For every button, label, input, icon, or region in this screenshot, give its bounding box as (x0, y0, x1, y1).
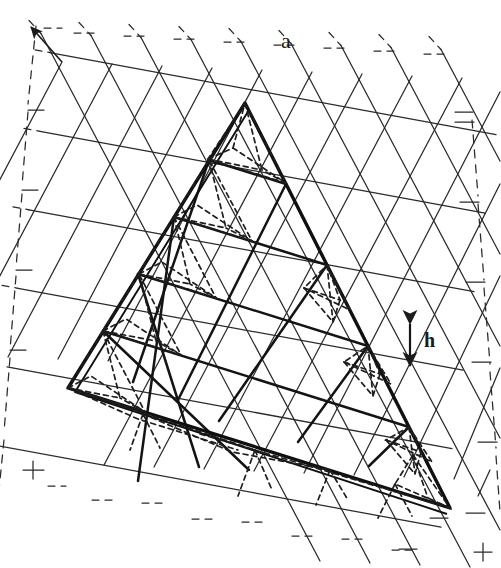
figure-panel: a h (0, 0, 501, 568)
panel-label-a: a (281, 30, 291, 52)
lattice-background-lines (0, 21, 500, 568)
lattice-vector-arrow (31, 27, 62, 62)
height-dimension-label: h (424, 330, 435, 350)
lattice-right-boundary (472, 120, 500, 512)
lattice-rows-b (29, 21, 500, 568)
lattice-left-boundary (0, 26, 36, 500)
lattice-diagram (0, 0, 501, 568)
tetra-right-mid (344, 346, 391, 396)
lattice-rows-c (0, 62, 500, 496)
